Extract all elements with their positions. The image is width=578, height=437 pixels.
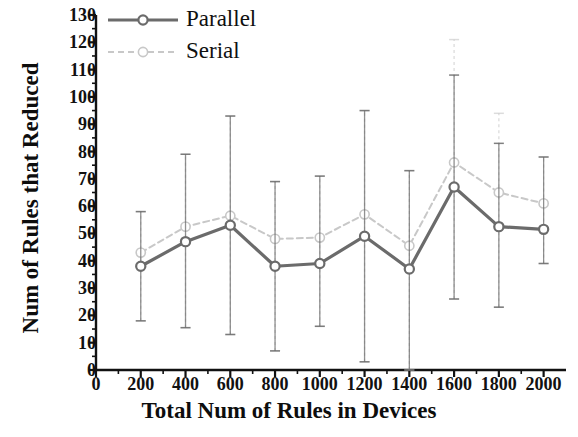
series-parallel — [136, 75, 549, 370]
data-point — [360, 232, 369, 241]
plot-canvas — [0, 0, 578, 437]
chart-figure: Num of Rules that Reduced Total Num of R… — [0, 0, 578, 437]
series-serial — [136, 40, 549, 370]
data-point — [226, 221, 235, 230]
legend-item-parallel — [108, 15, 178, 24]
legend-label-serial: Serial — [186, 38, 240, 64]
legend-label-parallel: Parallel — [186, 6, 256, 32]
data-point — [449, 182, 458, 191]
axes — [89, 15, 566, 377]
data-point — [181, 237, 190, 246]
data-point — [539, 225, 548, 234]
data-point — [315, 259, 324, 268]
legend — [108, 15, 178, 56]
data-series — [136, 40, 549, 370]
data-point — [405, 264, 414, 273]
data-point — [494, 222, 503, 231]
data-point — [270, 262, 279, 271]
legend-item-serial — [108, 47, 178, 56]
data-point — [136, 262, 145, 271]
